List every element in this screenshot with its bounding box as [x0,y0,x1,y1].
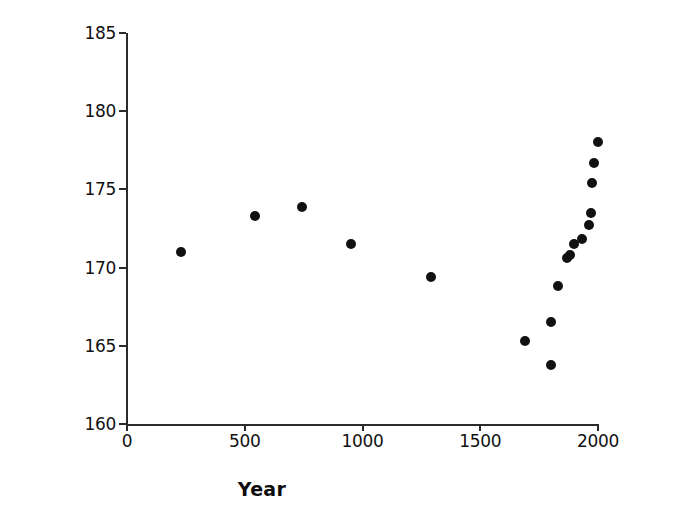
data-point [546,360,556,370]
data-point [553,281,563,291]
data-point [297,202,307,212]
x-tick-mark [126,424,128,431]
y-tick-mark [119,188,126,190]
x-tick-label: 0 [87,431,167,451]
data-point [589,158,599,168]
y-tick-label: 170 [76,258,116,278]
x-axis-label: Year [127,478,657,500]
data-point [250,211,260,221]
x-tick-label: 1000 [323,431,403,451]
data-point [562,253,572,263]
data-point [546,317,556,327]
data-point [584,220,594,230]
y-tick-mark [119,267,126,269]
data-point [176,247,186,257]
y-axis-line [126,33,128,425]
y-tick-mark [119,110,126,112]
y-tick-label: 185 [76,23,116,43]
scatter-chart: Stature (cm) Year 160165170175180185 050… [0,0,686,529]
x-tick-mark [362,424,364,431]
data-point [346,239,356,249]
x-tick-label: 1500 [440,431,520,451]
y-tick-mark [119,423,126,425]
data-point [520,336,530,346]
data-point [565,250,575,260]
y-tick-label: 175 [76,179,116,199]
y-tick-mark [119,32,126,34]
data-point [587,178,597,188]
data-point [426,272,436,282]
y-axis-label: Stature (cm) [0,0,40,529]
x-tick-mark [597,424,599,431]
y-tick-mark [119,345,126,347]
data-point [577,234,587,244]
x-tick-label: 500 [205,431,285,451]
x-tick-label: 2000 [558,431,638,451]
data-point [593,137,603,147]
data-point [569,239,579,249]
y-tick-label: 165 [76,336,116,356]
x-axis-label-text: Year [238,478,286,500]
x-tick-mark [479,424,481,431]
x-tick-mark [244,424,246,431]
data-point [586,208,596,218]
y-tick-label: 180 [76,101,116,121]
